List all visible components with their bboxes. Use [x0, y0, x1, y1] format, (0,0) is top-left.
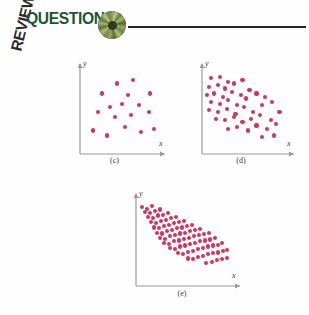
y-axis-label-e: y — [139, 190, 143, 198]
scatterplot-d: y x (d) — [186, 58, 296, 163]
x-axis-label-e: x — [232, 272, 236, 280]
y-axis-label-d: y — [205, 60, 209, 68]
scatterplot-c: y x (c) — [62, 58, 167, 163]
review-questions-header: REVIEW QUESTIONS — [0, 0, 309, 48]
scatterplot-e: y x (e) — [118, 186, 246, 306]
x-axis-label-c: x — [159, 140, 163, 148]
axes-e — [118, 186, 246, 298]
header-divider-rule — [128, 26, 306, 28]
caption-e: (e) — [118, 290, 246, 298]
x-axis-label-d: x — [287, 140, 291, 148]
caption-c: (c) — [62, 157, 167, 165]
axes-d — [186, 58, 296, 163]
page-root: REVIEW QUESTIONS y x (c) y x — [0, 0, 309, 315]
axes-c — [62, 58, 167, 163]
disc-inner-hub — [108, 21, 117, 30]
caption-d: (d) — [186, 157, 296, 165]
green-radial-disc-icon — [98, 11, 126, 39]
y-axis-label-c: y — [83, 60, 87, 68]
